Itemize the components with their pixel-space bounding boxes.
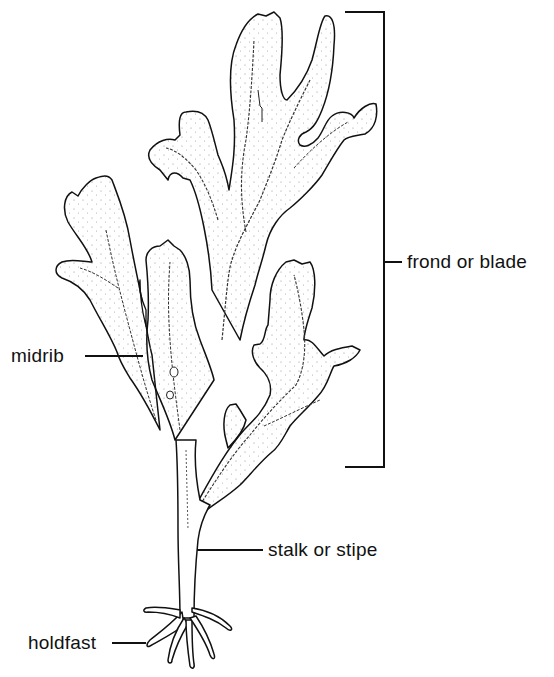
midrib-label: midrib — [11, 345, 64, 367]
holdfast-leader-line — [112, 642, 146, 644]
stipe — [176, 440, 210, 618]
frond-blades — [56, 12, 377, 515]
frond-bracket — [345, 12, 402, 467]
frond-label: frond or blade — [407, 251, 527, 273]
stipe-label: stalk or stipe — [268, 539, 377, 561]
stipe-leader-line — [197, 549, 263, 551]
midrib-leader-line — [85, 355, 143, 357]
holdfast-label: holdfast — [28, 632, 96, 654]
left-outer-blade — [56, 176, 160, 430]
seaweed-illustration — [0, 0, 554, 677]
seaweed-diagram: frond or blade midrib stalk or stipe hol… — [0, 0, 554, 677]
